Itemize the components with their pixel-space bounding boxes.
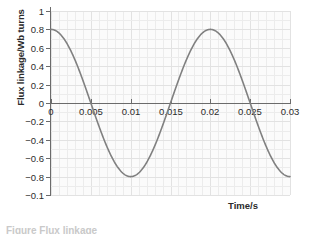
flux-linkage-curve [51, 11, 290, 195]
y-tick-label: −0.4 [25, 135, 44, 146]
grid-line-horizontal [51, 195, 290, 196]
y-tick-label: −0.8 [25, 172, 44, 183]
y-tick-mark [46, 195, 51, 196]
y-tick-label: −0.2 [25, 116, 44, 127]
y-tick-label: 0 [39, 98, 44, 109]
flux-linkage-figure: Flux linkage/Wb turns 10.80.60.40.20−0.2… [0, 0, 309, 234]
x-tick-mark [290, 99, 291, 103]
figure-caption: Figure Flux linkage [6, 225, 303, 234]
y-tick-label: 0.8 [31, 24, 44, 35]
flux-linkage-line [51, 29, 290, 176]
y-tick-label: −0.1 [25, 190, 44, 201]
y-tick-label: 0.2 [31, 80, 44, 91]
x-axis-title: Time/s [228, 200, 258, 211]
y-tick-label: 0.6 [31, 43, 44, 54]
y-tick-label: 0.4 [31, 61, 44, 72]
plot-area: 10.80.60.40.20−0.2−0.4−0.6−0.8−0.1 00.00… [51, 11, 290, 195]
y-axis-title: Flux linkage/Wb turns [15, 0, 26, 128]
y-tick-label: −0.6 [25, 153, 44, 164]
y-tick-label: 1 [39, 6, 44, 17]
